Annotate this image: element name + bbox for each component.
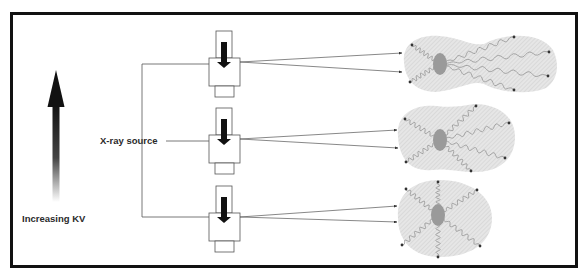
tube-high — [209, 31, 240, 97]
scatter-region — [398, 180, 492, 257]
tube-medium — [209, 108, 240, 174]
tube-base — [215, 241, 234, 252]
electron-beam-arrow-shaft — [221, 197, 227, 218]
track-endpoint — [405, 188, 408, 191]
increasing-kv-arrow — [48, 70, 65, 202]
kv-arrow-shaft — [53, 104, 60, 202]
tube-base — [215, 86, 234, 97]
kv-scatter-diagram: Increasing KV X-ray source — [0, 0, 585, 275]
track-endpoint — [504, 157, 507, 160]
scatter-region — [404, 36, 557, 93]
scatter-region — [398, 104, 515, 172]
track-endpoint — [508, 122, 511, 125]
xray-beam-line — [240, 206, 397, 217]
electron-beam-arrow-shaft — [221, 119, 227, 140]
track-endpoint — [547, 75, 550, 78]
track-endpoint — [437, 256, 440, 259]
track-endpoint — [401, 244, 404, 247]
pattern-medium — [398, 104, 515, 172]
track-endpoint — [548, 51, 551, 54]
track-endpoint — [475, 105, 478, 108]
track-endpoint — [405, 161, 408, 164]
track-endpoint — [513, 89, 516, 92]
kv-arrow-head — [48, 70, 65, 107]
electron-beam-arrow-shaft — [221, 42, 227, 63]
track-endpoint — [470, 170, 473, 173]
xray-source-label: X-ray source — [100, 135, 158, 146]
pattern-low — [398, 180, 492, 258]
tube-low — [209, 186, 240, 252]
interaction-nucleus — [433, 53, 447, 75]
track-endpoint — [411, 44, 414, 47]
tube-base — [215, 163, 234, 174]
interaction-nucleus — [431, 204, 445, 226]
xray-beam-line — [240, 62, 402, 72]
track-endpoint — [409, 81, 412, 84]
interaction-nucleus — [433, 129, 447, 151]
track-endpoint — [513, 36, 516, 39]
track-endpoint — [437, 181, 440, 184]
track-endpoint — [404, 118, 407, 121]
increasing-kv-label: Increasing KV — [22, 213, 86, 224]
xray-beam-line — [240, 139, 398, 148]
track-endpoint — [479, 245, 482, 248]
xray-beam-line — [240, 130, 397, 139]
xray-beam-line — [240, 53, 402, 62]
pattern-high — [404, 36, 557, 93]
track-endpoint — [476, 189, 479, 192]
xray-beam-line — [240, 217, 397, 222]
